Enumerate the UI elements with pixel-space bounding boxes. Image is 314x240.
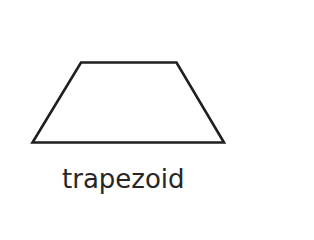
- trapezoid-outline: [33, 63, 225, 143]
- shape-label: trapezoid: [62, 164, 184, 194]
